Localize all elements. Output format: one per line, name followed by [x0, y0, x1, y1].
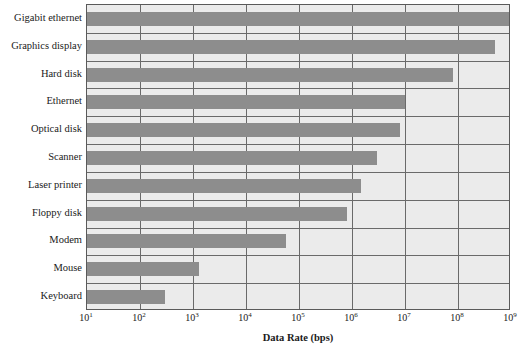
category-label: Hard disk — [0, 68, 84, 80]
x-tick-label: 104 — [238, 312, 252, 323]
bar — [87, 234, 286, 248]
category-label-column: Gigabit ethernetGraphics displayHard dis… — [0, 0, 84, 310]
gridline-horizontal — [87, 255, 509, 256]
gridline-horizontal — [87, 172, 509, 173]
category-label: Laser printer — [0, 179, 84, 191]
gridline-horizontal — [87, 144, 509, 145]
gridline-horizontal — [87, 116, 509, 117]
gridline-horizontal — [87, 200, 509, 201]
category-label: Ethernet — [0, 95, 84, 107]
plot-area — [86, 4, 510, 310]
bar — [87, 290, 165, 304]
category-label: Graphics display — [0, 40, 84, 52]
x-tick-label: 103 — [185, 312, 199, 323]
category-label: Optical disk — [0, 123, 84, 135]
category-label: Floppy disk — [0, 207, 84, 219]
category-label: Gigabit ethernet — [0, 12, 84, 24]
x-tick-label: 102 — [132, 312, 146, 323]
bar — [87, 179, 361, 193]
data-rate-bar-chart: Gigabit ethernetGraphics displayHard dis… — [0, 0, 523, 354]
gridline-horizontal — [87, 88, 509, 89]
gridline-horizontal — [87, 61, 509, 62]
bar — [87, 262, 199, 276]
bar — [87, 123, 400, 137]
bar — [87, 207, 347, 221]
bar — [87, 151, 377, 165]
bar — [87, 12, 510, 26]
x-tick-label: 107 — [397, 312, 411, 323]
category-label: Mouse — [0, 262, 84, 274]
category-label: Scanner — [0, 151, 84, 163]
x-tick-label: 109 — [503, 312, 517, 323]
gridline-horizontal — [87, 228, 509, 229]
category-label: Modem — [0, 234, 84, 246]
category-label: Keyboard — [0, 290, 84, 302]
x-tick-label: 101 — [79, 312, 93, 323]
bar — [87, 95, 405, 109]
gridline-horizontal — [87, 283, 509, 284]
bar — [87, 40, 495, 54]
bar — [87, 68, 453, 82]
x-tick-label: 108 — [450, 312, 464, 323]
x-axis-title: Data Rate (bps) — [86, 332, 510, 343]
x-tick-label: 105 — [291, 312, 305, 323]
gridline-horizontal — [87, 33, 509, 34]
x-tick-label: 106 — [344, 312, 358, 323]
x-axis-tick-labels: 101102103104105106107108109 — [86, 312, 510, 330]
